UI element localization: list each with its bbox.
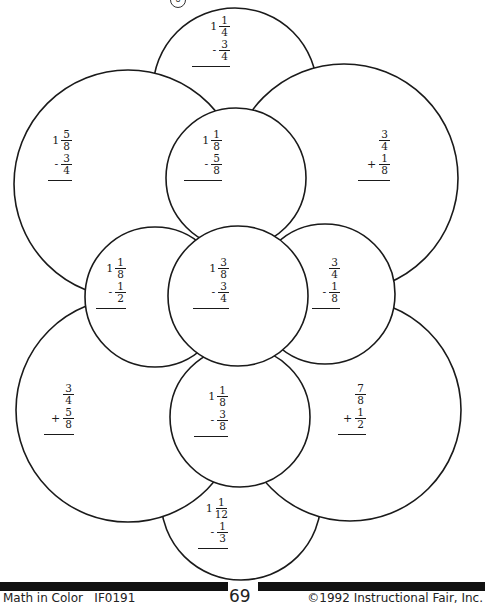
problem-lower-right: 78 +12	[338, 382, 366, 435]
answer-line	[192, 66, 230, 67]
answer-line	[44, 434, 74, 435]
circle-mid-center[interactable]	[168, 226, 308, 366]
problem-upper-center: 118 -58	[184, 128, 222, 181]
problem-mid-left: 118 -12	[96, 256, 126, 309]
answer-line	[194, 436, 228, 437]
answer-line	[48, 180, 72, 181]
problem-upper-right: 34 +18	[358, 128, 390, 181]
problem-lower-left: 34 +58	[44, 382, 74, 435]
footer-copyright: ©1992 Instructional Fair, Inc.	[307, 591, 483, 605]
footer-book-title: Math in Color IF0191	[3, 591, 135, 605]
answer-line	[198, 548, 228, 549]
footer-bar-right	[258, 582, 485, 591]
answer-line	[193, 308, 229, 309]
footer-bar-left	[0, 582, 228, 591]
answer-line	[96, 308, 126, 309]
problem-upper-left: 158 -34	[48, 128, 72, 181]
problem-lower-center: 118 -38	[194, 384, 228, 437]
circle-lower-center[interactable]	[170, 347, 310, 487]
problem-bottom: 1112 -13	[198, 496, 228, 549]
answer-line	[358, 180, 390, 181]
problem-mid-right: 34 -18	[312, 256, 340, 309]
problem-top: 114 -34	[192, 14, 230, 67]
page-number: 69	[229, 586, 251, 606]
flower-circles-drawing	[0, 0, 486, 607]
answer-line	[184, 180, 222, 181]
answer-line	[338, 434, 366, 435]
answer-line	[312, 308, 340, 309]
problem-mid-center: 138 -34	[193, 256, 229, 309]
